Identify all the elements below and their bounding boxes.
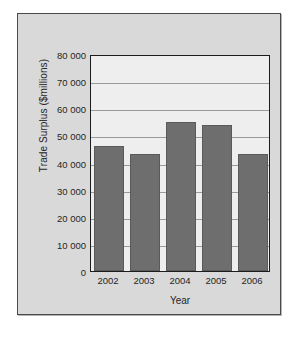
- x-axis-tick-label: 2006: [241, 275, 262, 286]
- x-axis-tick-label: 2005: [205, 275, 226, 286]
- x-axis-tick-label: 2003: [133, 275, 154, 286]
- x-axis-tick-label: 2002: [97, 275, 118, 286]
- plot-area: [90, 55, 270, 272]
- chart-figure: Trade Surplus ($millions) 010 00020 0003…: [0, 0, 298, 341]
- bar-series: [91, 56, 269, 271]
- y-axis-tick-label: 30 000: [30, 185, 86, 196]
- bar: [238, 154, 268, 271]
- y-axis-tick-label: 80 000: [30, 50, 86, 61]
- y-axis-tick-label: 0: [30, 267, 86, 278]
- bar: [166, 122, 196, 271]
- y-axis-tick-label: 60 000: [30, 104, 86, 115]
- y-axis-tick-label: 50 000: [30, 131, 86, 142]
- bar: [202, 125, 232, 271]
- x-axis-title: Year: [90, 295, 270, 306]
- y-axis-tick-label: 10 000: [30, 239, 86, 250]
- y-axis-tick-label: 20 000: [30, 212, 86, 223]
- x-axis-tick-labels: 20022003200420052006: [90, 275, 270, 291]
- bar: [94, 146, 124, 271]
- y-axis-tick-labels: 010 00020 00030 00040 00050 00060 00070 …: [30, 55, 86, 272]
- x-axis-tick-label: 2004: [169, 275, 190, 286]
- y-axis-tick-label: 40 000: [30, 158, 86, 169]
- chart-card: Trade Surplus ($millions) 010 00020 0003…: [17, 13, 281, 315]
- bar: [130, 154, 160, 271]
- y-axis-tick-label: 70 000: [30, 77, 86, 88]
